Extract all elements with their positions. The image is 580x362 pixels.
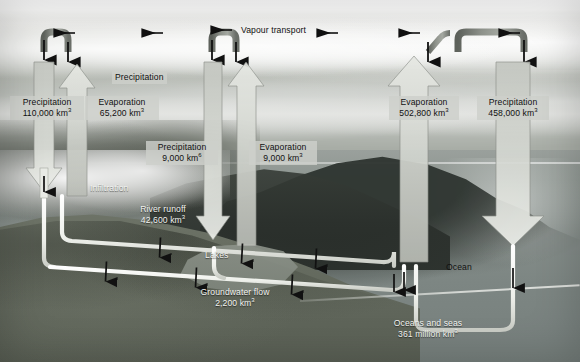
flow-value: 2,200 km3 [185, 298, 285, 309]
label-lakes: Lakes [205, 250, 228, 261]
label-inland-precipitation: Precipitation 9,000 km6 [146, 141, 218, 165]
label-land-precipitation: Precipitation 110,000 km3 [10, 96, 84, 120]
flow-value: 65,200 km3 [88, 108, 156, 119]
flow-value: 458,000 km3 [480, 108, 546, 119]
label-vapour-transport: Vapour transport [238, 24, 309, 37]
flow-name: Precipitation [23, 97, 72, 107]
flow-name: Precipitation [489, 97, 538, 107]
label-ocean-evaporation: Evaporation 502,800 km3 [389, 96, 459, 120]
label-ocean: Ocean [446, 262, 472, 273]
flow-value: 502,800 km3 [392, 108, 456, 119]
flow-name: Evaporation [401, 97, 448, 107]
flow-value: 42,600 km3 [128, 215, 198, 226]
arrow-land-evaporation [59, 64, 95, 196]
label-infiltration: Infiltration [90, 183, 128, 194]
water-cycle-diagram: Vapour transport Precipitation Precipita… [0, 0, 580, 362]
label-inland-evaporation: Evaporation 9,000 km3 [249, 141, 317, 165]
arrow-ocean-precipitation [482, 62, 544, 246]
flow-name: Precipitation [158, 142, 207, 152]
flow-value: 9,000 km3 [252, 153, 314, 164]
pipe-leg-arrows [44, 40, 524, 62]
flow-name: Groundwater flow [201, 287, 270, 297]
flow-name: Evaporation [260, 142, 307, 152]
label-land-evaporation: Evaporation 65,200 km3 [85, 96, 159, 120]
reservoir-value: 361 million km3 [380, 329, 476, 340]
reservoir-name: Oceans and seas [394, 318, 462, 328]
label-river-runoff: River runoff 42,600 km3 [128, 204, 198, 225]
label-ocean-precipitation: Precipitation 458,000 km3 [477, 96, 549, 120]
flow-name: River runoff [140, 204, 185, 214]
label-oceans-and-seas: Oceans and seas 361 million km3 [380, 318, 476, 339]
flow-graphics [0, 0, 580, 362]
flow-name: Evaporation [99, 97, 146, 107]
water-flow-arrows [44, 176, 513, 295]
arrow-ocean-evaporation [388, 56, 440, 262]
label-precipitation-centre: Precipitation [112, 71, 167, 84]
water-pipes [44, 196, 513, 330]
flow-value: 9,000 km6 [149, 153, 215, 164]
flow-value: 110,000 km3 [13, 108, 81, 119]
label-groundwater-flow: Groundwater flow 2,200 km3 [185, 287, 285, 308]
